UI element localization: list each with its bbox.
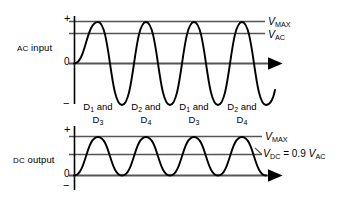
dc-vdc-symbol: V [263,147,270,159]
dc-output-caption-rest: output [25,154,55,165]
diode-label-4: D2 and D4 [222,101,262,126]
dc-vmax-subscript: MAX [272,135,288,144]
dc-rectified-waveform [74,137,266,176]
diode-label-3-and: and [190,101,209,112]
diode-label-3-line2: D3 [174,114,214,127]
ac-input-chart [69,16,275,105]
dc-axis-zero-mark: 0 [64,169,70,179]
ac-axis-plus-mark: + [64,13,70,24]
rectifier-waveform-figure: AC input DC output + 0 − + 0 − VMAX VAC … [0,0,345,199]
diode-label-3-line1: D1 and [174,101,214,114]
dc-vmax-label: VMAX [265,131,288,142]
diode-label-1-line2: D3 [78,114,118,127]
dc-output-chart [69,126,270,190]
dc-vdc-rhs-subscript: AC [316,152,326,161]
ac-vmax-label: VMAX [268,16,291,27]
ac-input-caption: AC input [17,43,52,53]
dc-output-caption-lead: DC [13,156,25,165]
dc-vmax-symbol: V [265,130,272,142]
ac-vac-subscript: AC [275,33,285,42]
ac-vac-label: VAC [268,29,285,40]
diode-label-2: D2 and D4 [126,101,166,126]
diode-label-1-sub: 1 [90,106,94,113]
diode-label-2-line2: D4 [126,114,166,127]
diode-label-4-sub2: 4 [243,119,247,126]
diode-label-2-and: and [142,101,161,112]
diode-label-4-line1: D2 and [222,101,262,114]
dc-vdc-equation-label: VDC = 0.9 VAC [263,148,326,159]
diode-label-2-line1: D2 and [126,101,166,114]
diode-label-4-and: and [238,101,257,112]
diode-label-1-and: and [94,101,113,112]
dc-vdc-rhs-symbol: V [308,147,315,159]
diode-label-2-sub2: 4 [147,119,151,126]
diode-label-2-sub: 2 [138,106,142,113]
ac-vmax-subscript: MAX [275,20,291,29]
waveform-svg [0,0,345,199]
diode-label-1-line1: D1 and [78,101,118,114]
ac-axis-minus-mark: − [63,98,69,109]
ac-axis-zero-mark: 0 [64,57,70,67]
dc-output-caption: DC output [13,155,55,165]
diode-label-1: D1 and D3 [78,101,118,126]
diode-label-4-sub: 2 [234,106,238,113]
dc-vdc-leader-line [255,148,262,155]
diode-label-4-line2: D4 [222,114,262,127]
ac-input-caption-lead: AC [17,44,28,53]
dc-axis-minus-mark: − [63,180,69,191]
ac-vmax-symbol: V [268,15,275,27]
diode-label-3-sub: 1 [186,106,190,113]
diode-label-3-sub2: 3 [195,119,199,126]
dc-vdc-subscript: DC [270,152,280,161]
ac-input-caption-rest: input [28,42,52,53]
dc-axis-plus-mark: + [64,124,70,135]
diode-label-1-sub2: 3 [99,119,103,126]
diode-label-3: D1 and D3 [174,101,214,126]
ac-vac-symbol: V [268,28,275,40]
dc-vdc-equals: = 0.9 [280,148,308,159]
